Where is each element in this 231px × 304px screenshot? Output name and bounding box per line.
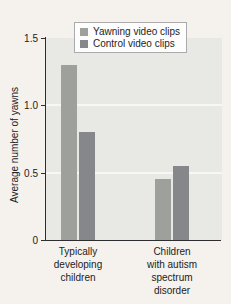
y-tick-mark (41, 105, 45, 106)
y-tick-mark (41, 240, 45, 241)
legend-item-yawning: Yawning video clips (80, 26, 180, 37)
y-tick-mark (41, 173, 45, 174)
legend-label: Yawning video clips (93, 26, 180, 37)
x-category-label: Children with autism spectrum disorder (117, 245, 227, 297)
y-tick-label: 1.5 (24, 33, 38, 44)
y-tick-mark (41, 38, 45, 39)
bar-control-group1 (79, 132, 95, 240)
legend-swatch-icon (80, 28, 88, 36)
plot-area (46, 38, 222, 240)
bar-yawning-group1 (61, 65, 77, 240)
bar-chart-figure: Average number of yawns Yawning video cl… (0, 0, 231, 304)
legend-swatch-icon (80, 40, 88, 48)
y-tick-label: 0 (32, 235, 38, 246)
bar-yawning-group2 (155, 179, 171, 240)
legend: Yawning video clipsControl video clips (74, 22, 187, 53)
bar-control-group2 (173, 166, 189, 240)
x-axis-line (41, 240, 221, 241)
y-tick-label: 0.5 (24, 168, 38, 179)
legend-label: Control video clips (93, 38, 175, 49)
y-axis-line (45, 37, 46, 241)
y-axis-title: Average number of yawns (9, 87, 20, 203)
legend-item-control: Control video clips (80, 38, 180, 49)
y-tick-label: 1.0 (24, 100, 38, 111)
